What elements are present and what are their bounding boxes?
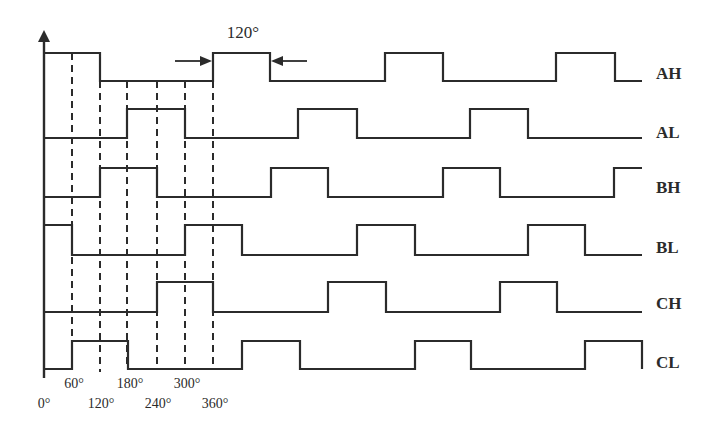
tick-label-240deg: 240°: [145, 396, 172, 411]
conduction-angle-label: 120°: [227, 23, 259, 42]
signal-label-ch: CH: [656, 294, 682, 313]
signal-label-bl: BL: [656, 238, 679, 257]
waveform-bl: [44, 225, 642, 255]
tick-label-120deg: 120°: [88, 396, 115, 411]
angle-tick-labels: 0°60°120°180°240°300°360°: [38, 376, 229, 411]
signal-label-ah: AH: [656, 64, 682, 83]
waveform-al: [44, 109, 642, 138]
signal-label-cl: CL: [656, 353, 680, 372]
tick-label-360deg: 360°: [202, 396, 229, 411]
gate-signal-waveforms: [44, 53, 642, 369]
waveform-ch: [44, 282, 642, 312]
waveform-ah: [44, 53, 642, 81]
phase-angle-gridlines: [72, 53, 213, 372]
signal-labels: AHALBHBLCHCL: [656, 64, 682, 372]
tick-label-300deg: 300°: [174, 376, 201, 391]
conduction-width-annotation: 120°: [175, 23, 307, 66]
waveform-cl: [44, 341, 642, 369]
left-pointing-arrow-icon: [271, 56, 283, 66]
vertical-axis: [38, 30, 50, 378]
tick-label-180deg: 180°: [117, 376, 144, 391]
axis-arrow-icon: [38, 30, 50, 42]
tick-label-60deg: 60°: [64, 376, 84, 391]
waveform-bh: [44, 168, 642, 197]
right-pointing-arrow-icon: [200, 56, 212, 66]
tick-label-0deg: 0°: [38, 396, 51, 411]
timing-diagram: 120° AHALBHBLCHCL 0°60°120°180°240°300°3…: [0, 0, 723, 429]
signal-label-al: AL: [656, 123, 680, 142]
signal-label-bh: BH: [656, 178, 681, 197]
